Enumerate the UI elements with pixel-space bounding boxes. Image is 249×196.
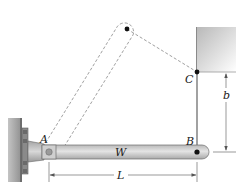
rotated-bar-outline (43, 23, 134, 155)
label-a: A (39, 133, 48, 146)
ceiling-support (196, 27, 236, 72)
bolt-icon (23, 169, 27, 173)
pin-a-icon (46, 149, 52, 155)
pin-b-icon (194, 149, 199, 154)
bolt-icon (23, 130, 27, 134)
bar-cable-diagram: A B C W L b (0, 0, 249, 196)
rotated-pin-icon (125, 27, 130, 32)
pin-c-icon (195, 70, 200, 75)
dimension-b (213, 73, 236, 152)
wall (8, 118, 22, 182)
bolt-icon (23, 139, 27, 143)
label-l: L (116, 169, 124, 182)
label-b-dimension: b (223, 89, 230, 102)
label-c: C (185, 73, 194, 86)
label-b: B (185, 135, 194, 148)
label-w: W (115, 146, 128, 159)
rotated-cable (127, 29, 197, 72)
bolt-icon (23, 161, 27, 165)
